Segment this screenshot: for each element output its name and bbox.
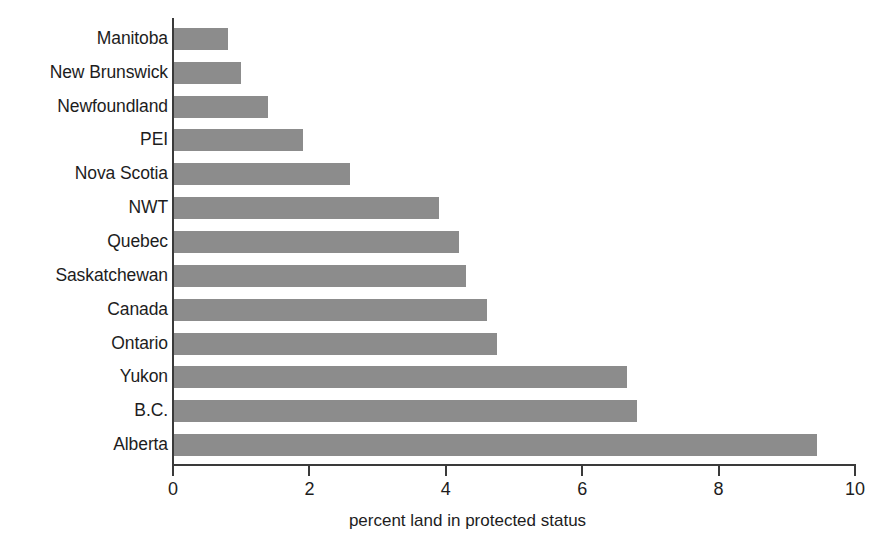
bar [173, 197, 439, 219]
category-label: PEI [140, 132, 168, 150]
x-axis-tick-label: 6 [577, 480, 587, 498]
bar-row: New Brunswick [0, 56, 885, 90]
bar [173, 96, 268, 118]
category-label: Canada [107, 301, 168, 319]
bar-row: Newfoundland [0, 90, 885, 124]
bar [173, 129, 303, 151]
bar-row: Canada [0, 293, 885, 327]
category-label: Yukon [120, 369, 168, 387]
x-axis-tick [308, 466, 310, 476]
bar-row: Yukon [0, 361, 885, 395]
bar-row: B.C. [0, 394, 885, 428]
x-axis-tick [445, 466, 447, 476]
bar [173, 231, 459, 253]
x-axis-tick [581, 466, 583, 476]
category-label: Newfoundland [57, 98, 168, 116]
bar-row: PEI [0, 124, 885, 158]
x-axis-tick-label: 2 [304, 480, 314, 498]
category-label: Quebec [107, 233, 168, 251]
bar [173, 400, 637, 422]
bar [173, 366, 627, 388]
bar [173, 333, 497, 355]
bar [173, 434, 817, 456]
category-label: Manitoba [97, 30, 168, 48]
bar-row: Ontario [0, 327, 885, 361]
x-axis-tick-label: 4 [441, 480, 451, 498]
category-label: New Brunswick [50, 64, 168, 82]
x-axis-tick [854, 466, 856, 476]
category-label: Nova Scotia [75, 166, 168, 184]
bar-row: NWT [0, 191, 885, 225]
category-label: Alberta [113, 436, 168, 454]
bar [173, 28, 228, 50]
bar-row: Quebec [0, 225, 885, 259]
x-axis-tick-label: 0 [168, 480, 178, 498]
x-axis-tick-label: 8 [714, 480, 724, 498]
bar-row: Alberta [0, 428, 885, 462]
bar [173, 299, 487, 321]
bar [173, 163, 350, 185]
plot-area: ManitobaNew BrunswickNewfoundlandPEINova… [0, 0, 885, 550]
x-axis-title: percent land in protected status [0, 512, 885, 529]
x-axis-tick [172, 466, 174, 476]
category-label: NWT [128, 199, 168, 217]
bar-row: Saskatchewan [0, 259, 885, 293]
category-label: Saskatchewan [55, 267, 168, 285]
category-label: B.C. [134, 402, 168, 420]
x-axis-tick-label: 10 [845, 480, 865, 498]
bar [173, 62, 241, 84]
bar [173, 265, 466, 287]
x-axis-tick [718, 466, 720, 476]
bar-row: Nova Scotia [0, 157, 885, 191]
bar-chart-figure: ManitobaNew BrunswickNewfoundlandPEINova… [0, 0, 885, 550]
x-axis-line [172, 464, 856, 466]
bar-row: Manitoba [0, 22, 885, 56]
category-label: Ontario [111, 335, 168, 353]
y-axis-line [172, 18, 174, 464]
